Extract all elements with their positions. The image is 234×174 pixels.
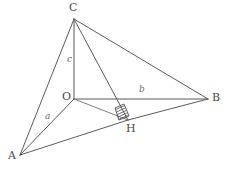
vertex-label-O: O xyxy=(62,91,71,102)
vertex-label-C: C xyxy=(69,2,77,13)
vertex-label-A: A xyxy=(8,150,16,161)
edge-label-b: b xyxy=(139,85,145,94)
edge-OH xyxy=(74,99,128,120)
geometry-figure: C O B A H a b c xyxy=(0,0,234,174)
edge-HB xyxy=(128,99,208,120)
vertex-label-B: B xyxy=(212,92,220,103)
edge-group xyxy=(20,19,208,155)
vertex-label-H: H xyxy=(126,123,136,134)
edge-label-a: a xyxy=(45,112,50,121)
edge-label-c: c xyxy=(67,55,72,64)
figure-canvas xyxy=(0,0,234,174)
edge-CH xyxy=(74,19,128,120)
edge-CA xyxy=(20,19,74,155)
